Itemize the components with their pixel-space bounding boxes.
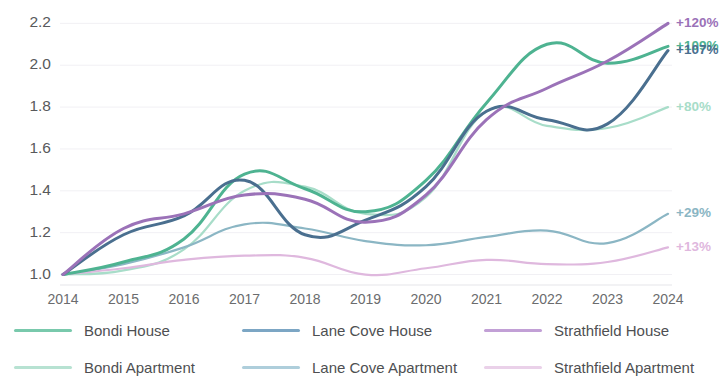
y-axis-tick-label: 2.0 bbox=[29, 55, 51, 72]
x-axis-tick-label: 2015 bbox=[108, 291, 139, 307]
legend-item-bondi-house[interactable]: Bondi House bbox=[14, 316, 242, 346]
end-label-lane-cove-house: +107% bbox=[676, 42, 718, 57]
x-axis-tick-label: 2014 bbox=[47, 291, 78, 307]
x-axis-tick-label: 2023 bbox=[592, 291, 623, 307]
x-axis-tick-label: 2020 bbox=[410, 291, 441, 307]
legend-label-strathfield-apartment: Strathfield Apartment bbox=[554, 359, 694, 376]
y-axis-tick-label: 1.2 bbox=[29, 223, 51, 240]
end-label-strathfield-house: +120% bbox=[676, 15, 718, 30]
legend-swatch-bondi-house bbox=[14, 329, 72, 332]
legend-swatch-strathfield-house bbox=[484, 329, 542, 332]
end-label-lane-cove-apartment: +29% bbox=[676, 205, 711, 220]
y-axis-tick-label: 1.6 bbox=[29, 139, 51, 156]
legend-item-strathfield-house[interactable]: Strathfield House bbox=[484, 316, 720, 346]
y-axis-tick-label: 1.4 bbox=[29, 181, 51, 198]
x-axis-tick-label: 2024 bbox=[652, 291, 683, 307]
legend-label-strathfield-house: Strathfield House bbox=[554, 322, 669, 339]
legend-label-lane-cove-house: Lane Cove House bbox=[312, 322, 432, 339]
legend-swatch-lane-cove-house bbox=[242, 329, 300, 332]
legend-label-bondi-house: Bondi House bbox=[84, 322, 170, 339]
chart-legend: Bondi House Lane Cove House Strathfield … bbox=[0, 312, 720, 386]
legend-swatch-lane-cove-apartment bbox=[242, 366, 300, 369]
y-axis-tick-label: 1.8 bbox=[29, 97, 51, 114]
end-label-bondi-apartment: +80% bbox=[676, 99, 711, 114]
legend-item-lane-cove-apartment[interactable]: Lane Cove Apartment bbox=[242, 353, 484, 383]
legend-label-bondi-apartment: Bondi Apartment bbox=[84, 359, 195, 376]
legend-label-lane-cove-apartment: Lane Cove Apartment bbox=[312, 359, 457, 376]
x-axis-tick-label: 2016 bbox=[168, 291, 199, 307]
x-axis-tick-label: 2019 bbox=[350, 291, 381, 307]
legend-item-strathfield-apartment[interactable]: Strathfield Apartment bbox=[484, 353, 720, 383]
price-index-line-chart: 2.22.01.81.61.41.21.02014201520162017201… bbox=[0, 0, 720, 386]
legend-item-lane-cove-house[interactable]: Lane Cove House bbox=[242, 316, 484, 346]
legend-swatch-bondi-apartment bbox=[14, 366, 72, 369]
y-axis-tick-label: 2.2 bbox=[29, 13, 51, 30]
y-axis-tick-label: 1.0 bbox=[29, 265, 51, 282]
end-label-strathfield-apartment: +13% bbox=[676, 239, 711, 254]
series-line-strathfield-apartment bbox=[63, 247, 668, 275]
legend-swatch-strathfield-apartment bbox=[484, 366, 542, 369]
legend-item-bondi-apartment[interactable]: Bondi Apartment bbox=[14, 353, 242, 383]
x-axis-tick-label: 2018 bbox=[289, 291, 320, 307]
x-axis-tick-label: 2022 bbox=[531, 291, 562, 307]
x-axis-tick-label: 2017 bbox=[229, 291, 260, 307]
x-axis-tick-label: 2021 bbox=[471, 291, 502, 307]
